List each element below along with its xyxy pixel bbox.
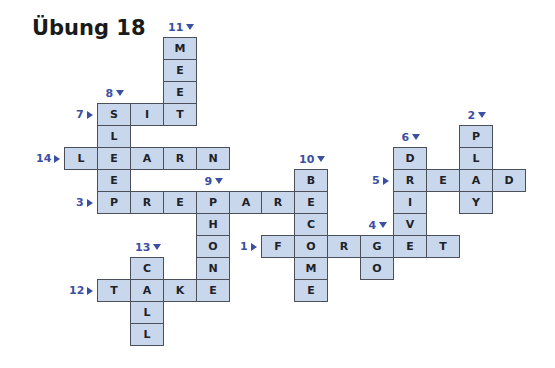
arrow-down-icon xyxy=(412,134,420,140)
clue-number-label: 7 xyxy=(76,108,84,121)
clue-number-label: 14 xyxy=(36,152,51,165)
crossword-cell: E xyxy=(196,279,230,302)
clue-number-label: 11 xyxy=(168,21,183,34)
clue-number-6: 6 xyxy=(402,132,421,143)
clue-number-label: 13 xyxy=(135,241,150,254)
crossword-cell: E xyxy=(163,81,197,104)
crossword-cell: R xyxy=(327,235,361,258)
clue-number-1: 1 xyxy=(240,241,257,252)
crossword-cell: E xyxy=(294,191,328,214)
crossword-cell: R xyxy=(393,169,427,192)
clue-number-11: 11 xyxy=(168,22,194,33)
crossword-cell: E xyxy=(294,279,328,302)
crossword-cell: S xyxy=(97,103,131,126)
clue-number-7: 7 xyxy=(76,109,93,120)
crossword-cell: M xyxy=(163,37,197,60)
crossword-cell: A xyxy=(229,191,263,214)
arrow-down-icon xyxy=(317,156,325,162)
arrow-down-icon xyxy=(186,24,194,30)
crossword-cell: T xyxy=(163,103,197,126)
crossword-cell: E xyxy=(163,59,197,82)
crossword-cell: I xyxy=(393,191,427,214)
arrow-down-icon xyxy=(153,244,161,250)
clue-number-label: 1 xyxy=(240,240,248,253)
crossword-cell: H xyxy=(196,213,230,236)
clue-number-label: 9 xyxy=(205,175,213,188)
crossword-cell: L xyxy=(97,125,131,148)
arrow-right-icon xyxy=(54,155,60,163)
arrow-right-icon xyxy=(87,199,93,207)
crossword-cell: L xyxy=(130,301,164,324)
clue-number-5: 5 xyxy=(372,175,389,186)
crossword-cell: O xyxy=(360,257,394,280)
crossword-cell: L xyxy=(64,147,98,170)
crossword-cell: L xyxy=(459,147,493,170)
clue-number-14: 14 xyxy=(36,153,60,164)
crossword-cell: E xyxy=(163,191,197,214)
crossword-cell: R xyxy=(261,191,295,214)
crossword-cell: R xyxy=(163,147,197,170)
crossword-cell: G xyxy=(360,235,394,258)
crossword-cell: T xyxy=(426,235,460,258)
crossword-cell: T xyxy=(97,279,131,302)
clue-number-label: 12 xyxy=(69,284,84,297)
clue-number-2: 2 xyxy=(468,110,487,121)
crossword-cell: E xyxy=(426,169,460,192)
crossword-cell: F xyxy=(261,235,295,258)
crossword-cell: P xyxy=(97,191,131,214)
clue-number-3: 3 xyxy=(76,197,93,208)
clue-number-label: 8 xyxy=(106,87,114,100)
arrow-right-icon xyxy=(87,287,93,295)
clue-number-label: 6 xyxy=(402,131,410,144)
crossword-cell: C xyxy=(130,257,164,280)
crossword-cell: D xyxy=(393,147,427,170)
crossword-cell: A xyxy=(130,147,164,170)
crossword-cell: M xyxy=(294,257,328,280)
crossword-cell: E xyxy=(393,235,427,258)
clue-number-13: 13 xyxy=(135,242,161,253)
crossword-cell: C xyxy=(294,213,328,236)
arrow-right-icon xyxy=(251,243,257,251)
arrow-down-icon xyxy=(116,90,124,96)
crossword-grid: FORGET1PLAY2PREPARE3O4RED5DIV6SIT7LEE8HO… xyxy=(0,0,555,368)
crossword-cell: E xyxy=(97,147,131,170)
arrow-down-icon xyxy=(478,112,486,118)
clue-number-4: 4 xyxy=(369,220,388,231)
crossword-cell: P xyxy=(459,125,493,148)
crossword-cell: A xyxy=(459,169,493,192)
crossword-cell: B xyxy=(294,169,328,192)
clue-number-label: 3 xyxy=(76,196,84,209)
arrow-down-icon xyxy=(379,222,387,228)
clue-number-10: 10 xyxy=(299,154,325,165)
crossword-cell: D xyxy=(492,169,526,192)
crossword-cell: O xyxy=(196,235,230,258)
crossword-cell: A xyxy=(130,279,164,302)
clue-number-label: 4 xyxy=(369,219,377,232)
clue-number-label: 10 xyxy=(299,153,314,166)
crossword-cell: L xyxy=(130,323,164,346)
arrow-right-icon xyxy=(383,177,389,185)
crossword-cell: E xyxy=(97,169,131,192)
crossword-cell: P xyxy=(196,191,230,214)
clue-number-label: 5 xyxy=(372,174,380,187)
crossword-cell: N xyxy=(196,147,230,170)
arrow-right-icon xyxy=(87,111,93,119)
arrow-down-icon xyxy=(215,178,223,184)
crossword-cell: O xyxy=(294,235,328,258)
crossword-cell: V xyxy=(393,213,427,236)
crossword-cell: I xyxy=(130,103,164,126)
clue-number-label: 2 xyxy=(468,109,476,122)
crossword-cell: K xyxy=(163,279,197,302)
crossword-cell: N xyxy=(196,257,230,280)
clue-number-9: 9 xyxy=(205,176,224,187)
crossword-cell: R xyxy=(130,191,164,214)
clue-number-8: 8 xyxy=(106,88,125,99)
clue-number-12: 12 xyxy=(69,285,93,296)
crossword-cell: Y xyxy=(459,191,493,214)
